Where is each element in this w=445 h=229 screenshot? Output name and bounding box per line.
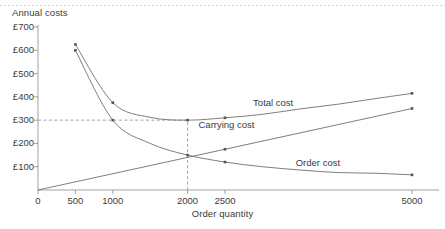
y-tick-label: £400 bbox=[0, 92, 34, 102]
data-point-marker bbox=[186, 154, 189, 157]
y-tick-label: £200 bbox=[0, 138, 34, 148]
data-point-marker bbox=[112, 119, 115, 122]
x-tick-label: 2500 bbox=[200, 196, 250, 206]
y-tick-label: £100 bbox=[0, 162, 34, 172]
y-tick-label: £300 bbox=[0, 115, 34, 125]
x-tick-label: 5000 bbox=[387, 196, 437, 206]
data-point-marker bbox=[411, 107, 414, 110]
x-tick-label: 1000 bbox=[88, 196, 138, 206]
series-line-order-cost bbox=[75, 50, 412, 175]
y-tick-label: £600 bbox=[0, 45, 34, 55]
data-point-marker bbox=[411, 174, 414, 177]
data-point-marker bbox=[224, 161, 227, 164]
y-tick-label: £500 bbox=[0, 69, 34, 79]
series-line-total-cost bbox=[75, 44, 412, 120]
data-point-marker bbox=[224, 148, 227, 151]
y-tick-label: £700 bbox=[0, 22, 34, 32]
series-label-order-cost: Order cost bbox=[296, 157, 340, 168]
data-point-marker bbox=[112, 101, 115, 104]
series-label-carrying-cost: Carrying cost bbox=[198, 119, 254, 130]
chart-figure: Annual costs Order quantity £100£200£300… bbox=[0, 0, 445, 229]
data-point-marker bbox=[411, 92, 414, 95]
data-point-marker bbox=[74, 49, 77, 52]
series-label-total-cost: Total cost bbox=[253, 97, 293, 108]
data-point-marker bbox=[74, 43, 77, 46]
data-point-marker bbox=[186, 119, 189, 122]
